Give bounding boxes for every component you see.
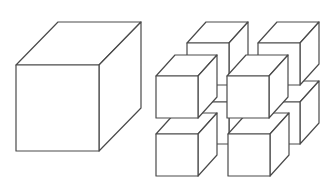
small-cube-front-bottom-left-front-face (156, 134, 198, 176)
small-cube-front-bottom-right-front-face (228, 134, 270, 176)
small-cube-grid (156, 22, 319, 176)
small-cube-front-top-right-front-face (227, 76, 269, 118)
cube-diagram (0, 0, 333, 190)
small-cube-front-bottom-left (156, 113, 217, 176)
large-cube-body (16, 22, 141, 151)
small-cube-front-top-left-front-face (156, 76, 198, 118)
large-cube (16, 22, 141, 151)
cube-diagram-canvas (0, 0, 333, 190)
large-cube-body-front-face (16, 65, 99, 151)
